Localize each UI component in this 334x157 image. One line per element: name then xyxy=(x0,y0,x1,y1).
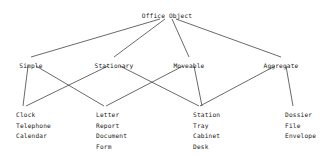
node-category-aggregate[interactable]: Aggregate xyxy=(264,62,299,69)
edge-simple-to-group-clock xyxy=(23,66,28,106)
node-category-moveable[interactable]: Moveable xyxy=(173,62,204,69)
leaf-item[interactable]: Station xyxy=(193,110,220,121)
edge-moveable-to-group-station xyxy=(194,66,202,106)
edge-aggregate-to-group-station xyxy=(200,66,275,106)
leaf-group-group-letter: LetterReportDocumentForm xyxy=(96,110,127,152)
edge-moveable-to-group-letter xyxy=(106,66,183,106)
node-root-office-object[interactable]: Office Object xyxy=(142,12,192,19)
leaf-item[interactable]: Tray xyxy=(193,121,220,132)
leaf-item[interactable]: Document xyxy=(96,131,127,142)
leaf-item[interactable]: Telephone xyxy=(16,121,51,132)
leaf-item[interactable]: Cabinet xyxy=(193,131,220,142)
edge-stationary-to-group-station xyxy=(120,66,199,106)
edge-stationary-to-group-clock xyxy=(26,66,108,106)
leaf-item[interactable]: Envelope xyxy=(285,131,316,142)
leaf-item[interactable]: Dossier xyxy=(285,110,316,121)
leaf-item[interactable]: Desk xyxy=(193,142,220,153)
edge-aggregate-to-group-dossier xyxy=(286,66,293,106)
leaf-item[interactable]: Clock xyxy=(16,110,51,121)
leaf-item[interactable]: Report xyxy=(96,121,127,132)
leaf-group-group-clock: ClockTelephoneCalendar xyxy=(16,110,51,142)
node-category-stationary[interactable]: Stationary xyxy=(95,62,134,69)
edge-root-to-moveable xyxy=(172,19,189,57)
leaf-group-group-station: StationTrayCabinetDesk xyxy=(193,110,220,152)
class-hierarchy-diagram: Office ObjectSimpleStationaryMoveableAgg… xyxy=(0,0,334,157)
leaf-group-group-dossier: DossierFileEnvelope xyxy=(285,110,316,142)
edge-root-to-simple xyxy=(31,19,160,57)
node-category-simple[interactable]: Simple xyxy=(19,62,42,69)
leaf-item[interactable]: Calendar xyxy=(16,131,51,142)
leaf-item[interactable]: Letter xyxy=(96,110,127,121)
leaf-item[interactable]: File xyxy=(285,121,316,132)
edge-simple-to-group-letter xyxy=(36,66,104,106)
edge-root-to-aggregate xyxy=(176,19,281,57)
leaf-item[interactable]: Form xyxy=(96,142,127,153)
